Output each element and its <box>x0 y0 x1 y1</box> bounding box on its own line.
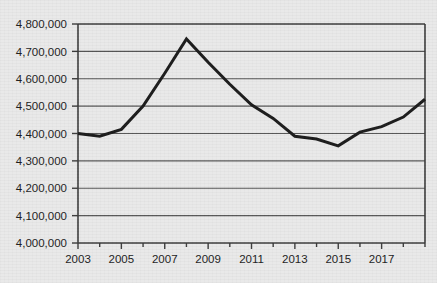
y-axis-tick-label: 4,200,000 <box>16 182 67 194</box>
y-axis-tick-label: 4,800,000 <box>16 18 67 30</box>
y-axis-tick-labels: 4,000,0004,100,0004,200,0004,300,0004,40… <box>16 18 67 249</box>
x-axis-tick-label: 2011 <box>239 253 264 265</box>
line-chart: 4,000,0004,100,0004,200,0004,300,0004,40… <box>0 0 437 283</box>
y-axis-tick-label: 4,400,000 <box>16 128 67 140</box>
chart-screenshot: 4,000,0004,100,0004,200,0004,300,0004,40… <box>0 0 437 283</box>
x-axis-tick-labels: 20032005200720092011201320152017 <box>65 253 394 265</box>
y-axis-tick-label: 4,500,000 <box>16 100 67 112</box>
x-axis-tick-label: 2003 <box>65 253 91 265</box>
y-axis-ticks <box>72 24 78 243</box>
y-axis-tick-label: 4,600,000 <box>16 73 67 85</box>
x-axis-tick-label: 2015 <box>325 253 351 265</box>
x-axis-tick-label: 2013 <box>282 253 308 265</box>
y-axis-tick-label: 4,000,000 <box>16 237 67 249</box>
x-axis-tick-label: 2009 <box>195 253 221 265</box>
x-axis-ticks <box>78 243 425 249</box>
x-axis-tick-label: 2005 <box>109 253 135 265</box>
y-axis-tick-label: 4,100,000 <box>16 210 67 222</box>
y-axis-tick-label: 4,700,000 <box>16 46 67 58</box>
y-axis-tick-label: 4,300,000 <box>16 155 67 167</box>
x-axis-tick-label: 2007 <box>152 253 178 265</box>
x-axis-tick-label: 2017 <box>369 253 395 265</box>
